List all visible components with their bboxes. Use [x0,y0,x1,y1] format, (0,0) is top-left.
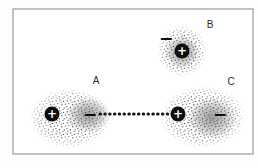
molecule-b-label: B [207,19,214,30]
plus-sign-a: + [47,107,57,121]
figure-canvas: − + B + − A + [0,0,260,166]
negative-charge-icon-c: − [213,104,227,124]
negative-charge-icon-b: − [159,28,173,48]
dipole-attraction-figure: − + B + − A + [0,0,260,166]
electron-cloud-a [29,88,111,148]
plus-sign-c: + [173,107,183,121]
molecule-c-label: C [227,76,234,87]
negative-charge-icon-a: − [83,104,97,124]
molecule-a-label: A [93,75,100,86]
positive-charge-icon-a: + [45,107,60,122]
plus-sign-b: + [177,44,187,58]
positive-charge-icon-b: + [175,44,190,59]
positive-charge-icon-c: + [171,107,186,122]
